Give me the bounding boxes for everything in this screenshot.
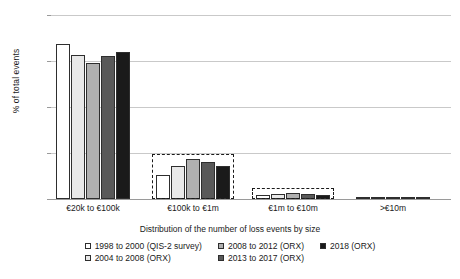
bar xyxy=(86,63,100,199)
bar-group-bars xyxy=(56,15,130,199)
bar xyxy=(171,166,185,199)
bar-group-bars xyxy=(356,15,430,199)
bar-group: €1m to €10m xyxy=(256,15,330,199)
bar xyxy=(201,162,215,199)
bar xyxy=(386,197,400,199)
bar xyxy=(271,194,285,199)
legend-label: 2013 to 2017 (ORX) xyxy=(228,253,304,263)
bar xyxy=(401,197,415,199)
legend-item[interactable]: 1998 to 2000 (QIS-2 survey) xyxy=(85,241,202,251)
bar xyxy=(356,197,370,199)
x-axis-title: Distribution of the number of loss event… xyxy=(0,224,460,234)
legend-item[interactable]: 2008 to 2012 (ORX) xyxy=(218,241,304,251)
bar-group: >€10m xyxy=(356,15,430,199)
bar-group-bars xyxy=(156,15,230,199)
legend-item[interactable]: 2018 (ORX) xyxy=(320,241,375,251)
legend-label: 1998 to 2000 (QIS-2 survey) xyxy=(95,241,202,251)
bar xyxy=(286,193,300,199)
legend-item[interactable]: 2004 to 2008 (ORX) xyxy=(85,253,202,263)
x-category-label: €20k to €100k xyxy=(66,203,119,213)
x-category-label: €1m to €10m xyxy=(268,203,318,213)
legend-swatch-icon xyxy=(218,255,224,261)
bar xyxy=(316,195,330,199)
bar xyxy=(416,197,430,199)
x-category-label: €100k to €1m xyxy=(167,203,219,213)
chart-legend: 1998 to 2000 (QIS-2 survey)2008 to 2012 … xyxy=(0,241,460,263)
bar-group-bars xyxy=(256,15,330,199)
gridline-0pct xyxy=(51,199,451,200)
bar xyxy=(186,159,200,199)
y-tick-mark xyxy=(47,61,51,62)
y-tick-mark xyxy=(47,153,51,154)
legend-label: 2004 to 2008 (ORX) xyxy=(95,253,171,263)
plot-area: 0%25%50%75%100%€20k to €100k€100k to €1m… xyxy=(51,15,451,199)
legend-item[interactable]: 2013 to 2017 (ORX) xyxy=(218,253,304,263)
legend-swatch-icon xyxy=(218,243,224,249)
bar-group: €100k to €1m xyxy=(156,15,230,199)
legend-swatch-icon xyxy=(320,243,326,249)
y-axis-title: % of total events xyxy=(11,21,21,141)
bar-chart: % of total events 0%25%50%75%100%€20k to… xyxy=(0,0,460,279)
bar-group: €20k to €100k xyxy=(56,15,130,199)
bar xyxy=(56,44,70,199)
bar xyxy=(256,195,270,199)
x-category-label: >€10m xyxy=(380,203,406,213)
y-tick-mark xyxy=(47,15,51,16)
legend-swatch-icon xyxy=(85,243,91,249)
bar xyxy=(116,52,130,199)
legend-spacer xyxy=(320,253,375,263)
bar xyxy=(101,56,115,199)
bar xyxy=(156,175,170,199)
legend-label: 2018 (ORX) xyxy=(330,241,375,251)
bar xyxy=(301,194,315,199)
bar xyxy=(371,197,385,199)
legend-label: 2008 to 2012 (ORX) xyxy=(228,241,304,251)
legend-swatch-icon xyxy=(85,255,91,261)
y-tick-mark xyxy=(47,107,51,108)
y-tick-mark xyxy=(47,199,51,200)
bar xyxy=(216,166,230,199)
bar xyxy=(71,55,85,199)
